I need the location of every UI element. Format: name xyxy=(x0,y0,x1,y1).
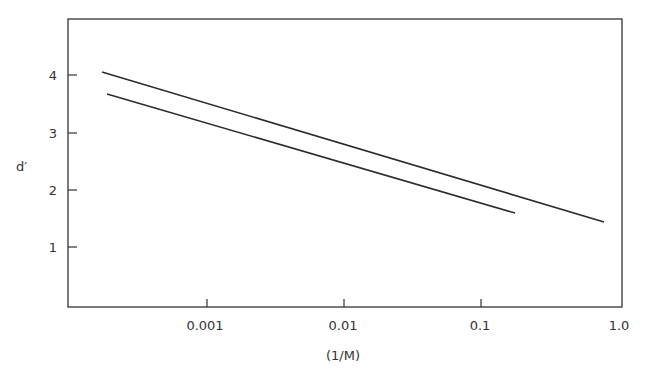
y-tick-label: 1 xyxy=(49,240,57,255)
y-tick-label: 3 xyxy=(49,126,57,141)
y-axis-label: d′ xyxy=(16,159,27,174)
series-lower-line xyxy=(107,94,515,213)
x-axis: 0.001 0.01 0.1 1.0 (1/M) xyxy=(186,299,629,363)
x-tick-label: 1.0 xyxy=(609,318,630,333)
x-axis-label: (1/M) xyxy=(326,348,360,363)
series-upper-line xyxy=(102,72,604,222)
y-tick-label: 2 xyxy=(49,183,57,198)
x-tick-label: 0.01 xyxy=(329,318,358,333)
chart: 4 3 2 1 d′ 0.001 0.01 0.1 1.0 (1/M) xyxy=(0,0,648,376)
x-tick-label: 0.1 xyxy=(470,318,491,333)
y-tick-label: 4 xyxy=(49,68,57,83)
x-tick-label: 0.001 xyxy=(186,318,223,333)
